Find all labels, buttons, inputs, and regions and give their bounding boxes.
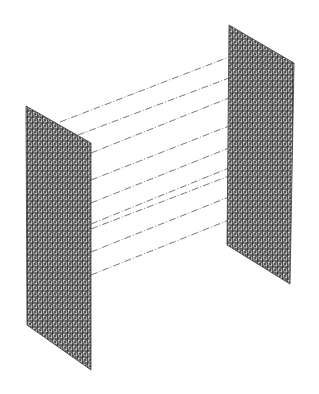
connector-line-6 [91, 168, 229, 224]
mesh-diagram: Two parallel triangulated mesh panels co… [0, 0, 319, 394]
connector-line-4 [91, 126, 229, 180]
connector-line-9 [91, 220, 229, 275]
mesh-panels [26, 25, 294, 370]
right-panel [227, 25, 294, 284]
connector-line-2 [78, 78, 229, 135]
diagram-canvas [0, 0, 319, 394]
connector-line-1 [60, 57, 229, 122]
connector-line-5 [91, 148, 229, 203]
connector-line-7 [91, 176, 229, 229]
connector-line-3 [91, 98, 229, 153]
connector-line-8 [91, 197, 229, 252]
left-panel [26, 106, 91, 370]
